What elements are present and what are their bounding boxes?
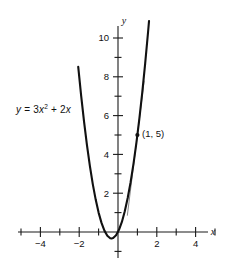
point-annotation-label: (1, 5) (142, 128, 164, 139)
x-tick-label-neg2: −2 (74, 238, 85, 249)
y-tick-label-10: 10 (98, 32, 109, 43)
point-marker-1-5 (135, 133, 139, 137)
parabola-plot: −4−224 246810 x y (0, 0, 230, 269)
y-tick-label-6: 6 (104, 110, 109, 121)
y-tick-label-4: 4 (104, 149, 109, 160)
x-axis-label: x (210, 226, 216, 237)
x-axis-tick-labels: −4−224 (35, 238, 198, 249)
y-tick-label-2: 2 (104, 188, 109, 199)
x-tick-label-2: 2 (154, 238, 159, 249)
parabola-curve (78, 21, 149, 239)
graph-figure: −4−224 246810 x y y = 3x2 + 2x (1, 5) (0, 0, 230, 269)
y-axis-label: y (121, 15, 127, 26)
y-tick-label-8: 8 (104, 71, 109, 82)
x-tick-label-neg4: −4 (35, 238, 46, 249)
y-axis-tick-labels: 246810 (98, 32, 109, 198)
x-tick-label-4: 4 (193, 238, 198, 249)
axes-group (18, 26, 208, 258)
equation-label: y = 3x2 + 2x (16, 103, 71, 115)
